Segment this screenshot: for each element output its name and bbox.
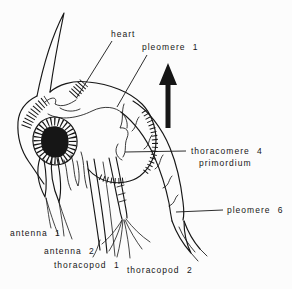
label-heart: heart — [111, 29, 135, 39]
head-outline — [18, 96, 127, 184]
label-pleomere-1: pleomere 1 — [142, 42, 199, 52]
up-arrow-icon — [159, 63, 177, 128]
label-antenna-2: antenna 2 — [44, 246, 95, 256]
label-primordium: primordium — [199, 158, 252, 168]
label-pleomere-6: pleomere 6 — [227, 205, 284, 215]
label-thoracopod-1: thoracopod 1 — [54, 260, 120, 270]
pleomere-1-leader-line — [117, 55, 147, 107]
thoracopod-2-limb — [102, 157, 150, 258]
antennae-blades — [38, 152, 87, 239]
label-antenna-1: antenna 1 — [10, 228, 61, 238]
telson-fork — [172, 221, 207, 261]
thoracomere-4-leader-line — [125, 151, 186, 152]
pleomere-6-leader-line — [176, 210, 223, 212]
heart-leader-line — [77, 41, 112, 97]
rostral-spine — [37, 13, 64, 96]
figure-crustacean-larva: heart pleomere 1 thoracomere 4 primordiu… — [0, 0, 292, 289]
compound-eye — [28, 113, 81, 169]
thoracopod-1-limb — [87, 159, 115, 257]
label-thoracopod-2: thoracopod 2 — [127, 265, 193, 275]
label-thoracomere-4: thoracomere 4 — [191, 146, 263, 156]
